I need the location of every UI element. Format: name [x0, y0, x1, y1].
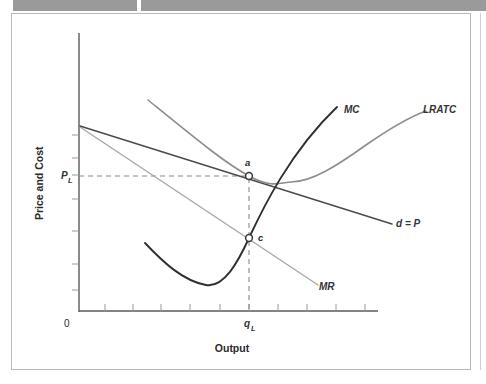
point-c-marker	[246, 235, 253, 242]
y-axis-title: Price and Cost	[33, 146, 45, 220]
x-axis-ticks	[105, 304, 365, 311]
curve-demand	[80, 126, 392, 224]
label-origin: 0	[64, 318, 70, 329]
label-mr: MR	[319, 281, 335, 292]
label-price-main: P	[61, 170, 68, 181]
x-axis-title: Output	[215, 342, 250, 354]
y-axis-ticks	[72, 135, 79, 290]
chart-plot: MC LRATC d = P MR a c P L q L 0 Price an…	[0, 0, 486, 384]
point-a-marker	[246, 173, 253, 180]
curve-mr	[80, 127, 318, 285]
label-mc: MC	[344, 104, 360, 115]
label-demand: d = P	[396, 218, 421, 229]
curve-lratc	[148, 100, 426, 184]
label-point-a: a	[245, 157, 250, 168]
curve-mc	[145, 107, 337, 285]
label-quantity-main: q	[244, 318, 250, 329]
label-point-c: c	[258, 232, 264, 243]
label-lratc: LRATC	[423, 104, 457, 115]
label-quantity-sub: L	[251, 324, 256, 333]
label-price-sub: L	[68, 176, 73, 185]
